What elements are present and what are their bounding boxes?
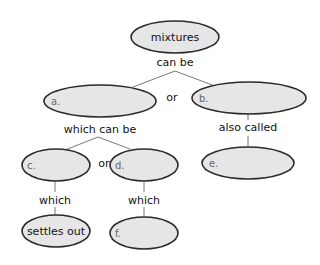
node-b[interactable]: b.	[192, 82, 306, 114]
line-root-b	[175, 71, 215, 86]
node-c[interactable]: c.	[22, 149, 90, 181]
node-mixtures-text: mixtures	[151, 31, 200, 44]
link-label-or-ab: or	[166, 91, 178, 104]
node-settles-out-text: settles out	[27, 225, 86, 238]
node-b-letter: b.	[199, 93, 209, 104]
link-label-also-called: also called	[219, 121, 277, 134]
concept-map: mixtures can be a. or b. which can be al…	[0, 0, 320, 265]
line-a-c	[65, 137, 98, 150]
node-a[interactable]: a.	[44, 85, 156, 117]
node-e-letter: e.	[209, 158, 218, 169]
node-f[interactable]: f.	[110, 217, 178, 249]
node-c-letter: c.	[27, 160, 36, 171]
line-root-a	[133, 71, 175, 87]
link-label-which-can-be: which can be	[64, 123, 137, 136]
link-label-which-c: which	[39, 194, 71, 207]
node-mixtures: mixtures	[131, 21, 219, 53]
link-label-which-d: which	[128, 194, 160, 207]
node-d[interactable]: d.	[110, 149, 178, 181]
node-e[interactable]: e.	[202, 147, 294, 179]
line-a-d	[98, 137, 130, 149]
node-f-letter: f.	[115, 228, 121, 239]
node-settles-out: settles out	[22, 215, 90, 247]
node-d-letter: d.	[115, 160, 125, 171]
node-a-letter: a.	[51, 96, 60, 107]
link-label-can-be: can be	[156, 56, 193, 69]
link-label-or-cd: or	[98, 157, 110, 170]
